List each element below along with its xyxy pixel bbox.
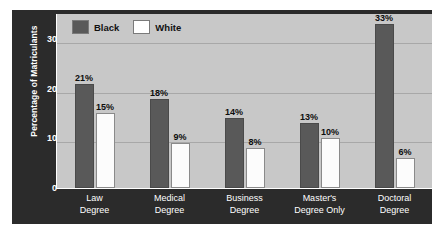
y-axis-ticks: 0102030 [12, 10, 57, 224]
bar-rect[interactable] [321, 138, 340, 188]
x-axis-label-line: Degree [207, 205, 282, 217]
bar-group: 18%9% [132, 14, 207, 188]
legend-label: White [155, 22, 181, 33]
bar-black[interactable]: 21% [75, 14, 94, 188]
x-axis-label-line: Degree [357, 205, 432, 217]
bar-rect[interactable] [375, 24, 394, 188]
bar-value-label: 10% [315, 127, 346, 137]
bar-group: 21%15% [57, 14, 132, 188]
x-axis-label: MedicalDegree [132, 193, 207, 216]
bar-rect[interactable] [96, 113, 115, 188]
bar-group: 13%10% [282, 14, 357, 188]
bar-black[interactable]: 14% [225, 14, 244, 188]
x-axis-label-line: Medical [132, 193, 207, 205]
x-axis-label-line: Degree [57, 205, 132, 217]
bar-white[interactable]: 8% [246, 14, 265, 188]
x-axis-label-line: Law [57, 193, 132, 205]
x-axis-label-line: Doctoral [357, 193, 432, 205]
bar-rect[interactable] [246, 148, 265, 188]
bar-rect[interactable] [150, 99, 169, 188]
y-tick-label: 0 [13, 183, 57, 193]
x-axis-label: Master'sDegree Only [282, 193, 357, 216]
bar-value-label: 15% [90, 102, 121, 112]
legend-entry-white: White [133, 20, 181, 34]
plot-area: 21%15%18%9%14%8%13%10%33%6% [57, 14, 432, 188]
bar-black[interactable]: 33% [375, 14, 394, 188]
bar-white[interactable]: 10% [321, 14, 340, 188]
bar-value-label: 8% [240, 137, 271, 147]
bar-rect[interactable] [396, 158, 415, 188]
bar-white[interactable]: 15% [96, 14, 115, 188]
legend-swatch-icon [72, 20, 89, 34]
x-axis-line [57, 188, 432, 189]
legend-label: Black [94, 22, 119, 33]
bar-black[interactable]: 18% [150, 14, 169, 188]
y-tick-label: 30 [13, 34, 57, 44]
y-tick-label: 10 [13, 133, 57, 143]
x-axis-label: BusinessDegree [207, 193, 282, 216]
chart-legend: BlackWhite [72, 20, 181, 34]
bar-black[interactable]: 13% [300, 14, 319, 188]
bar-rect[interactable] [75, 84, 94, 188]
legend-entry-black: Black [72, 20, 119, 34]
x-axis-label-line: Degree [132, 205, 207, 217]
bar-value-label: 6% [390, 147, 421, 157]
x-axis-label-line: Degree Only [282, 205, 357, 217]
x-axis-label: LawDegree [57, 193, 132, 216]
x-axis-labels: LawDegreeMedicalDegreeBusinessDegreeMast… [57, 191, 432, 224]
bar-group: 14%8% [207, 14, 282, 188]
x-axis-label-line: Master's [282, 193, 357, 205]
bar-white[interactable]: 9% [171, 14, 190, 188]
bar-value-label: 9% [165, 132, 196, 142]
bar-rect[interactable] [171, 143, 190, 188]
bar-rect[interactable] [225, 118, 244, 188]
x-axis-label: DoctoralDegree [357, 193, 432, 216]
y-tick-label: 20 [13, 84, 57, 94]
x-axis-label-line: Business [207, 193, 282, 205]
bar-group: 33%6% [357, 14, 432, 188]
legend-swatch-icon [133, 20, 150, 34]
bar-white[interactable]: 6% [396, 14, 415, 188]
chart-frame: Percentage of Matriculants 0102030 21%15… [12, 10, 432, 224]
